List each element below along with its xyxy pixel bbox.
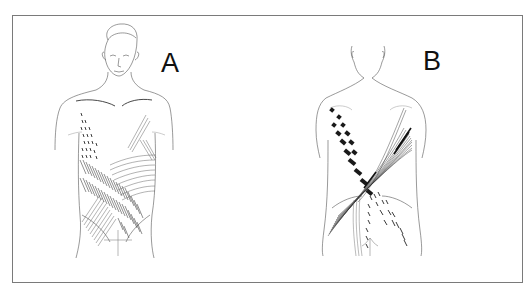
panel-label-b: B (423, 48, 441, 75)
panel-label-a: A (161, 50, 179, 77)
panel-a-front-view: A (0, 0, 266, 294)
back-fan-lines (328, 108, 412, 236)
back-dark-fibers (364, 128, 411, 188)
back-body-illustration (266, 0, 532, 294)
back-hatch-dashes (366, 192, 407, 248)
back-spine-lines (353, 196, 362, 256)
panel-b-back-view: B (266, 0, 532, 294)
front-rib-lines (110, 115, 156, 200)
front-body-outline (55, 24, 173, 258)
back-body-outline (316, 46, 426, 256)
back-hatch-blocks (329, 107, 373, 196)
front-hatch-dashes (81, 113, 97, 159)
front-body-illustration (0, 0, 266, 294)
front-hatch-abdomen (80, 160, 143, 238)
